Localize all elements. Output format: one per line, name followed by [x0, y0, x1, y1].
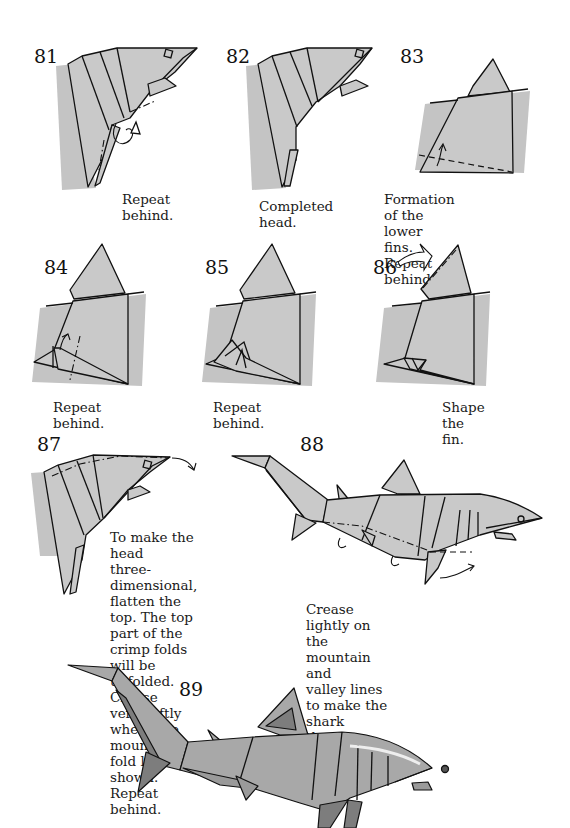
step-number: 88 [300, 433, 324, 455]
caption-line: flatten the top. The top [110, 593, 197, 625]
caption-line: To make the head [110, 529, 197, 561]
step-caption: Repeat behind. [213, 399, 264, 431]
caption-line: three-dimensional, [110, 561, 197, 593]
step-number: 87 [37, 433, 61, 455]
step-89-diagram [0, 0, 1, 1]
step-number: 84 [44, 256, 68, 278]
step-number: 89 [179, 678, 203, 700]
step-number: 85 [205, 256, 229, 278]
caption-line: part of the crimp folds [110, 625, 197, 657]
step-number: 81 [34, 45, 58, 67]
step-caption: Shape the fin. [442, 399, 485, 447]
step-caption: Repeat behind. [53, 399, 104, 431]
step-number: 83 [400, 45, 424, 67]
caption-line: valley lines to make the shark [306, 681, 393, 729]
step-number: 82 [226, 45, 250, 67]
caption-line: Formation of the lower [384, 191, 455, 239]
caption-line: Crease lightly on the mountain and [306, 601, 393, 681]
step-caption: Completed head. [259, 198, 333, 230]
step-number: 86 [373, 256, 397, 278]
step-caption: Repeat behind. [122, 191, 173, 223]
